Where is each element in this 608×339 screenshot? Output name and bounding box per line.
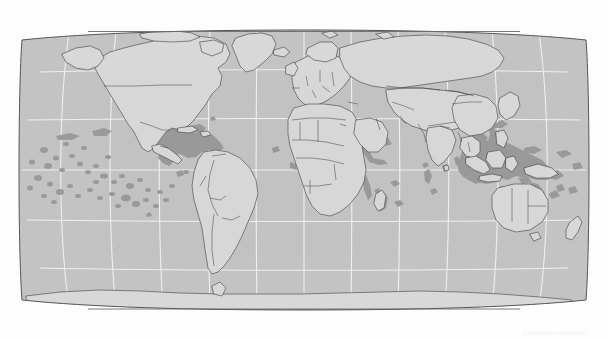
world-map-figure: Created with mapchart.net	[0, 0, 608, 339]
map-attribution: Created with mapchart.net	[522, 330, 587, 336]
map-body	[18, 28, 592, 314]
world-map-svg	[0, 0, 608, 339]
land-sri-lanka	[444, 165, 449, 171]
